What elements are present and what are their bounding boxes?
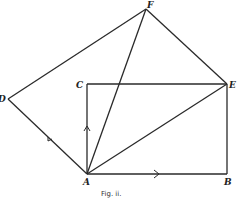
diagonal-AF [87, 9, 146, 174]
label-A: A [82, 177, 90, 187]
figure-caption: Fig. ii. [101, 190, 121, 198]
label-B: B [223, 177, 232, 187]
segment-FE [146, 9, 227, 84]
label-D: D [0, 94, 6, 104]
vector-parallelogram-diagram: A B C E D F Fig. ii. [0, 0, 238, 198]
label-C: C [76, 80, 84, 90]
label-F: F [146, 0, 154, 10]
diagonal-AE [87, 84, 227, 174]
label-E: E [228, 80, 236, 90]
segment-AD [8, 99, 87, 174]
